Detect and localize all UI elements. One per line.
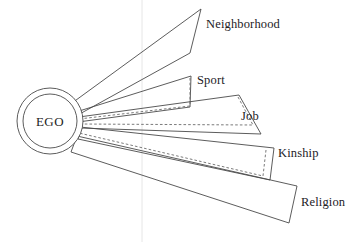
wedge-job[interactable] <box>79 95 261 134</box>
wedge-neighborhood[interactable] <box>72 9 201 116</box>
label-religion: Religion <box>301 196 345 209</box>
label-kinship: Kinship <box>278 147 319 160</box>
label-neighborhood: Neighborhood <box>206 18 280 31</box>
wedge-kinship-fill-marker <box>79 133 266 176</box>
radial-wedge-diagram: EGO <box>0 0 352 242</box>
label-job: Job <box>241 110 259 123</box>
wedge-religion[interactable] <box>71 136 297 223</box>
wedge-job-fill-marker <box>80 97 253 125</box>
label-sport: Sport <box>197 74 225 87</box>
ego-label: EGO <box>36 114 64 129</box>
diagram-canvas: EGO Neighborhood Sport Job Kinship Relig… <box>0 0 352 242</box>
wedge-kinship[interactable] <box>78 127 274 180</box>
